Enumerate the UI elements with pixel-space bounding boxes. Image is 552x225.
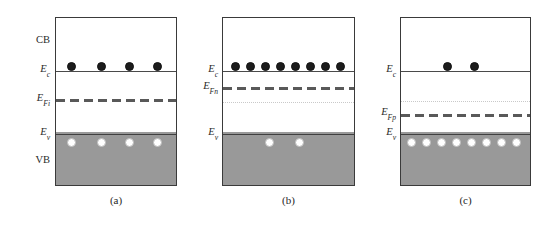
ec-line-b	[223, 71, 354, 72]
ec-level-label-c: Ec	[356, 64, 396, 77]
valence-band-fill-b	[223, 132, 354, 185]
intrinsic-reference-line-c	[401, 101, 530, 102]
electron-dot	[276, 62, 285, 71]
ev-level-label-c: Ev	[356, 127, 396, 140]
hole-dot	[482, 138, 491, 147]
ev-line-b	[223, 134, 354, 135]
conduction-band-label-a: CB	[10, 35, 50, 46]
efp-dashed-line-c	[401, 114, 530, 117]
band-box-b	[222, 17, 355, 186]
electron-dot	[231, 62, 240, 71]
hole-dot	[265, 138, 274, 147]
electron-dot	[443, 62, 452, 71]
hole-dot	[437, 138, 446, 147]
valence-band-label-a: VB	[10, 155, 50, 166]
hole-dot	[295, 138, 304, 147]
efn-level-label-b: EFn	[172, 81, 218, 94]
electron-dot	[125, 62, 134, 71]
ec-line-c	[401, 71, 530, 72]
hole-dot	[422, 138, 431, 147]
efi-dashed-line-a	[56, 99, 176, 102]
hole-dot	[153, 138, 162, 147]
ec-level-label-b: Ec	[178, 64, 218, 77]
ec-line-a	[56, 71, 176, 72]
hole-dot	[497, 138, 506, 147]
ev-line-c	[401, 134, 530, 135]
hole-dot	[125, 138, 134, 147]
band-diagram-figure: CB Ec EFi Ev VB (a) Ec EFn Ev	[0, 0, 552, 225]
intrinsic-reference-line-b	[223, 102, 354, 103]
electron-dot	[470, 62, 479, 71]
hole-dot	[452, 138, 461, 147]
hole-dot	[97, 138, 106, 147]
panel-caption-b: (b)	[222, 194, 355, 206]
ev-level-label-b: Ev	[178, 127, 218, 140]
ec-level-label-a: Ec	[10, 64, 50, 77]
electron-dot	[67, 62, 76, 71]
panel-caption-c: (c)	[400, 194, 531, 206]
hole-dot	[67, 138, 76, 147]
electron-dot	[321, 62, 330, 71]
panel-caption-a: (a)	[55, 194, 177, 206]
band-box-a	[55, 17, 177, 186]
electron-dot	[97, 62, 106, 71]
ev-line-a	[56, 134, 176, 135]
efn-dashed-line-b	[223, 87, 354, 90]
hole-dot	[512, 138, 521, 147]
electron-dot	[153, 62, 162, 71]
electron-dot	[306, 62, 315, 71]
electron-dot	[261, 62, 270, 71]
efi-level-label-a: EFi	[6, 93, 50, 106]
band-box-c	[400, 17, 531, 186]
hole-dot	[467, 138, 476, 147]
valence-band-fill-c	[401, 132, 530, 185]
efp-level-label-c: EFp	[350, 107, 396, 120]
electron-dot	[336, 62, 345, 71]
electron-dot	[246, 62, 255, 71]
hole-dot	[407, 138, 416, 147]
ev-level-label-a: Ev	[10, 127, 50, 140]
electron-dot	[291, 62, 300, 71]
